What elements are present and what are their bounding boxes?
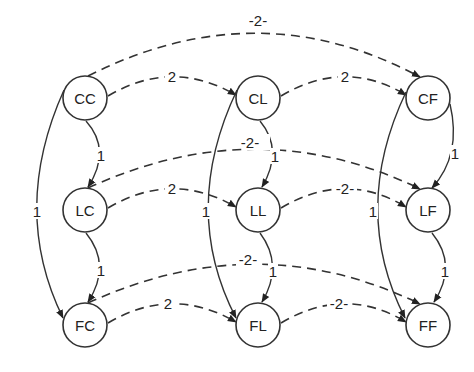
edge-cc-cf (88, 33, 420, 77)
node-label-cl: CL (248, 90, 267, 107)
edge-lc-lf (88, 149, 420, 189)
node-label-fc: FC (75, 317, 95, 334)
node-cf: CF (406, 76, 450, 120)
node-label-ll: LL (250, 202, 267, 219)
state-transition-diagram: -2- 2 2 -2- 2 -2- -2- 2 -2- 1 1 1 1 1 1 … (0, 0, 474, 372)
edge-labels: -2- 2 2 -2- 2 -2- -2- 2 -2- 1 1 1 1 1 1 … (32, 12, 460, 312)
label-cl-fl: 1 (202, 203, 210, 220)
node-ff: FF (406, 303, 450, 347)
label-lc-ll: 2 (168, 180, 176, 197)
edge-cl-fl (208, 90, 237, 318)
node-cc: CC (63, 76, 107, 120)
label-fl-ff: -2- (330, 295, 348, 312)
label-lf-ff: 1 (441, 263, 449, 280)
label-cc-lc: 1 (97, 147, 105, 164)
node-label-lf: LF (419, 202, 437, 219)
label-fc-ff: -2- (239, 251, 257, 268)
node-label-cc: CC (74, 90, 96, 107)
node-lc: LC (63, 188, 107, 232)
label-lc-fc: 1 (97, 262, 105, 279)
node-label-cf: CF (418, 90, 438, 107)
label-ll-lf: -2- (336, 180, 354, 197)
node-label-fl: FL (249, 317, 267, 334)
label-cf-ff: 1 (369, 203, 377, 220)
node-lf: LF (406, 188, 450, 232)
node-cl: CL (236, 76, 280, 120)
edge-fc-ff (88, 264, 420, 304)
label-ll-fl: 1 (269, 263, 277, 280)
label-cl-cf: 2 (341, 68, 349, 85)
label-lc-lf: -2- (241, 134, 259, 151)
label-fc-fl: 2 (164, 295, 172, 312)
node-fl: FL (236, 303, 280, 347)
node-label-lc: LC (75, 202, 94, 219)
node-ll: LL (236, 188, 280, 232)
label-cf-lf: 1 (451, 145, 459, 162)
label-cc-fc: 1 (33, 203, 41, 220)
label-cc-cl: 2 (168, 68, 176, 85)
node-label-ff: FF (419, 317, 437, 334)
node-fc: FC (63, 303, 107, 347)
label-cl-ll: 1 (271, 148, 279, 165)
label-cc-cf: -2- (249, 12, 267, 29)
